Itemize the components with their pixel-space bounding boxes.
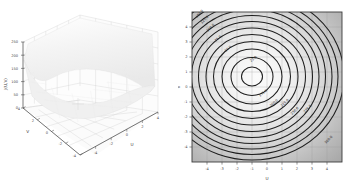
contour-plot-svg: 25.0 50.0 75.0 100.0 125.0 150.0 175.0 2… bbox=[178, 0, 355, 196]
surface-v-axis-label: V bbox=[26, 129, 29, 134]
surface-z-tick-5: 250 bbox=[11, 40, 19, 44]
contour-x-tick-3: -1 bbox=[250, 167, 254, 171]
surface-plot-svg: 0 50 100 150 200 250 J(U,V) 4 2 0 bbox=[0, 0, 178, 196]
surface-z-tick-3: 150 bbox=[11, 67, 19, 71]
surface-z-tick-2: 100 bbox=[11, 80, 19, 84]
contour-x-tick-5: 1 bbox=[281, 167, 283, 171]
contour-y-tick-1: -3 bbox=[184, 130, 188, 134]
contour-x-tick-2: -2 bbox=[235, 167, 239, 171]
contour-y-tick-4: 0 bbox=[185, 85, 188, 89]
surface-plot-panel: 0 50 100 150 200 250 J(U,V) 4 2 0 bbox=[0, 0, 178, 196]
surface-v-tick-4: 4 bbox=[18, 107, 21, 111]
contour-y-ticks: 4 3 2 1 0 -1 -2 -3 -4 bbox=[184, 25, 192, 149]
contour-y-tick-2: -2 bbox=[184, 115, 188, 119]
surface-z-tick-4: 200 bbox=[11, 54, 19, 58]
surface-z-ticks: 0 50 100 150 200 250 bbox=[11, 40, 24, 110]
contour-x-tick-7: 3 bbox=[311, 167, 313, 171]
surface-z-axis-label: J(U,V) bbox=[3, 78, 8, 91]
surface-z-tick-1: 50 bbox=[13, 93, 18, 97]
contour-y-tick-5: 1 bbox=[185, 70, 187, 74]
contour-y-tick-6: 2 bbox=[185, 55, 187, 59]
surface-v-tick-0: -4 bbox=[72, 154, 76, 158]
figure-canvas: 0 50 100 150 200 250 J(U,V) 4 2 0 bbox=[0, 0, 355, 196]
contour-x-tick-6: 2 bbox=[296, 167, 298, 171]
contour-x-ticks: -4 -3 -2 -1 0 1 2 3 4 bbox=[205, 162, 329, 171]
surface-v-tick-2: 0 bbox=[46, 131, 49, 135]
contour-x-tick-1: -3 bbox=[220, 167, 224, 171]
surface-v-tick-3: 2 bbox=[32, 119, 34, 123]
contour-y-tick-3: -1 bbox=[184, 100, 188, 104]
surface-u-tick-2: 0 bbox=[126, 133, 129, 137]
surface-u-tick-1: -2 bbox=[109, 142, 113, 146]
contour-y-tick-0: -4 bbox=[184, 145, 188, 149]
surface-u-axis-label: U bbox=[130, 142, 133, 147]
contour-plot-panel: 25.0 50.0 75.0 100.0 125.0 150.0 175.0 2… bbox=[178, 0, 355, 196]
contour-x-tick-0: -4 bbox=[205, 167, 209, 171]
contour-y-tick-8: 4 bbox=[185, 25, 188, 29]
contour-y-tick-7: 3 bbox=[185, 40, 187, 44]
contour-x-tick-4: 0 bbox=[266, 167, 269, 171]
surface-v-tick-1: -2 bbox=[58, 142, 62, 146]
surface-u-tick-3: 2 bbox=[141, 125, 143, 129]
surface-u-tick-4: 4 bbox=[157, 116, 160, 120]
contour-y-axis-label: V bbox=[178, 85, 181, 88]
contour-x-tick-8: 4 bbox=[326, 167, 329, 171]
contour-x-axis-label: U bbox=[265, 176, 268, 181]
